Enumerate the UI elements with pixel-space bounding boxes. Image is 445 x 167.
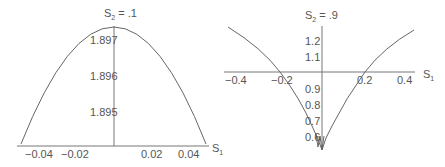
chart-left-ytick: 1.896 bbox=[90, 70, 118, 82]
chart-right: S2 = .9 −0.4 −0.2 0.2 0.4 1.2 1.1 0.9 0.… bbox=[224, 9, 434, 150]
chart-right-xtick: 0.2 bbox=[357, 74, 372, 86]
chart-left-xtick: 0.02 bbox=[141, 148, 162, 160]
chart-right-ytick: 1.1 bbox=[305, 51, 320, 63]
chart-right-ytick: 1.2 bbox=[305, 35, 320, 47]
chart-right-title: S2 = .9 bbox=[305, 9, 338, 23]
chart-right-ytick: 0.6 bbox=[305, 131, 320, 143]
chart-left-xlabel: S1 bbox=[212, 142, 223, 156]
chart-right-xlabel: S1 bbox=[423, 68, 434, 82]
chart-left-xtick: 0.04 bbox=[178, 148, 199, 160]
chart-right-curve-right bbox=[322, 30, 414, 150]
chart-left-xtick: −0.04 bbox=[25, 148, 53, 160]
figure: S2 = .1 −0.04 −0.02 0.02 0.04 1.897 1.89… bbox=[0, 0, 445, 167]
chart-left-title: S2 = .1 bbox=[104, 7, 137, 21]
chart-right-ytick: 0.9 bbox=[305, 83, 320, 95]
chart-right-xtick: −0.2 bbox=[271, 74, 293, 86]
chart-left-ytick: 1.897 bbox=[90, 34, 118, 46]
chart-left: S2 = .1 −0.04 −0.02 0.02 0.04 1.897 1.89… bbox=[17, 7, 223, 160]
chart-right-ytick: 0.7 bbox=[305, 115, 320, 127]
chart-right-ytick: 0.8 bbox=[305, 99, 320, 111]
chart-left-ytick: 1.895 bbox=[90, 106, 118, 118]
chart-left-xtick: −0.02 bbox=[61, 148, 89, 160]
chart-right-xtick: 0.4 bbox=[397, 74, 412, 86]
chart-right-xtick: −0.4 bbox=[225, 74, 247, 86]
